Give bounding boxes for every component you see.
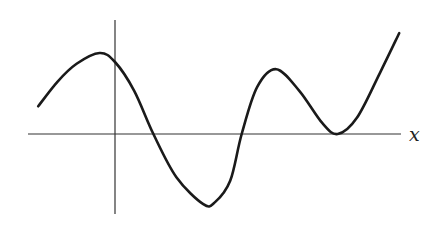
function-graph: x [0, 0, 441, 236]
function-curve [38, 33, 399, 206]
x-axis-label: x [409, 123, 420, 145]
